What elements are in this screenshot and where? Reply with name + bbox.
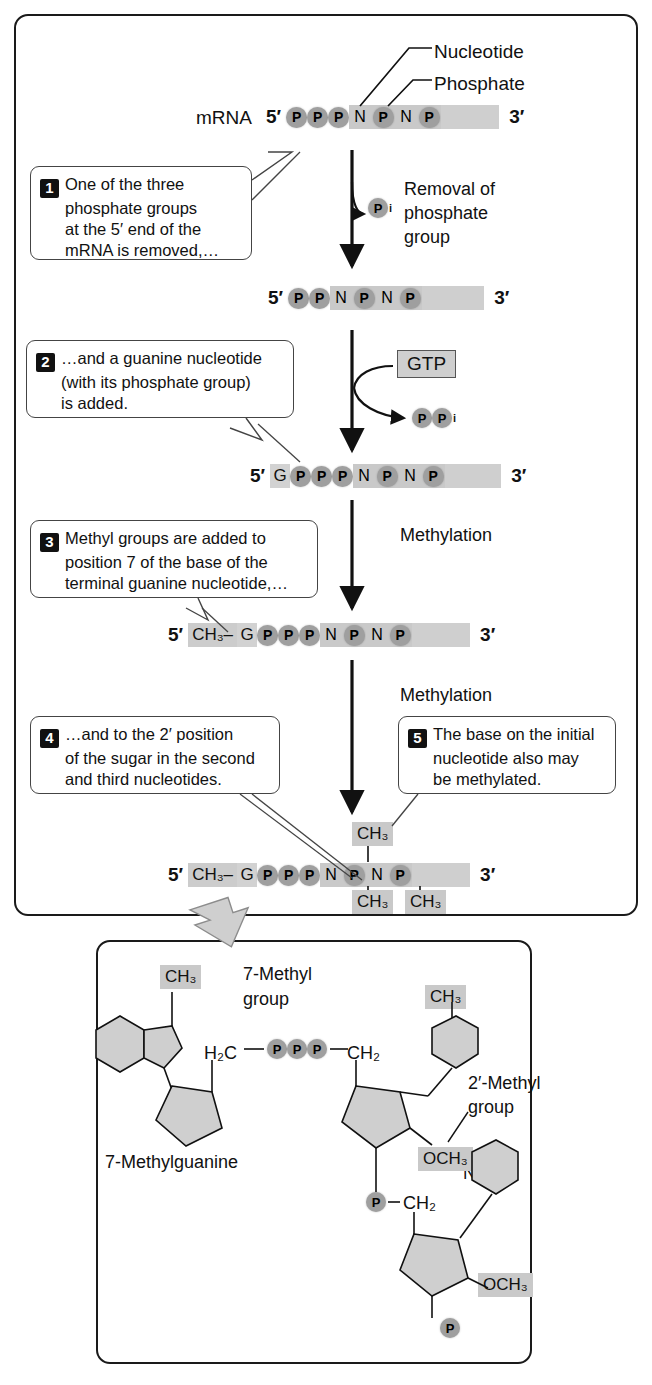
phosphate-box: P: [417, 105, 441, 129]
phosphate-bead: P: [412, 408, 432, 428]
phosphate-box: P: [398, 286, 422, 310]
phosphate-bead: P: [288, 288, 309, 309]
phosphate-bead: P: [287, 1039, 307, 1059]
label-mrna: mRNA: [196, 106, 252, 130]
nucleotide-box: N: [399, 464, 421, 488]
phosphate-bead: P: [286, 107, 307, 128]
linker-phosphate-2: P: [440, 1318, 460, 1338]
guanine-box: G: [237, 863, 257, 887]
callout-step-4: 4…and to the 2′ position of the sugar in…: [30, 716, 280, 794]
step-number-badge: 2: [36, 353, 55, 372]
methyl-cap-chip: CH₃–: [188, 863, 237, 887]
phosphate-bead: P: [278, 625, 299, 646]
step-1-line-3: at the 5′ end of the: [40, 219, 242, 240]
methylguanine-caption: 7-Methylguanine: [105, 1151, 238, 1174]
phosphate-bead: P: [377, 466, 398, 487]
phosphate-box: P: [421, 464, 445, 488]
callout-step-5: 5The base on the initial nucleotide also…: [398, 716, 616, 794]
guanine-letter: G: [101, 1040, 115, 1063]
phosphate-bead: P: [257, 865, 278, 886]
phosphate-bead: P: [290, 466, 311, 487]
base-n-label-1: N: [441, 1038, 454, 1061]
three-prime-label: 3′: [480, 624, 495, 646]
three-prime-label: 3′: [480, 864, 495, 886]
phosphate-bead: P: [419, 107, 440, 128]
phosphate-box: P: [342, 623, 366, 647]
three-prime-label: 3′: [511, 465, 526, 487]
step-4-line-3: and third nucleotides.: [40, 769, 270, 790]
five-prime-label: 5′: [168, 624, 183, 646]
step-5-line-2: nucleotide also may: [408, 748, 606, 769]
strand-tail: [422, 286, 484, 310]
nucleotide-box: N: [320, 863, 342, 887]
strand-tail: [445, 464, 501, 488]
phosphate-bead: P: [257, 625, 278, 646]
methyl-on-base-chip: CH₃: [425, 985, 466, 1009]
step-5-line-1: 5The base on the initial: [408, 724, 606, 748]
phosphate-bead: P: [299, 625, 320, 646]
step-3-line-3: terminal guanine nucleotide,…: [40, 573, 308, 594]
step-1-line-1: 1One of the three: [40, 174, 242, 198]
five-prime-label: 5′: [250, 465, 265, 487]
phosphate-bead: P: [423, 466, 444, 487]
nucleotide-box: N: [376, 286, 398, 310]
methyl-group-top: CH₃: [352, 822, 393, 846]
guanine-box: G: [237, 623, 257, 647]
step-5-line-3: be methylated.: [408, 769, 606, 790]
methylation-label-1: Methylation: [400, 524, 492, 547]
ppi-subscript: i: [453, 412, 456, 424]
phosphate-bead: P: [344, 625, 365, 646]
triphosphate-bridge: P P P: [267, 1039, 327, 1059]
five-prime-label: 5′: [168, 864, 183, 886]
step-2-line-3: is added.: [36, 393, 284, 414]
phosphate-bead: P: [299, 865, 320, 886]
h2c-label: H₂C: [204, 1042, 237, 1065]
step-number-badge: 5: [408, 729, 427, 748]
methyl-group-bottom-1: CH₃: [352, 890, 393, 914]
nucleotide-box: N: [395, 105, 417, 129]
phosphate-box: P: [371, 105, 395, 129]
nucleotide-box: N: [366, 863, 388, 887]
phosphate-bead: P: [390, 865, 411, 886]
nucleotide-box: N: [349, 105, 371, 129]
step-1-line-2: phosphate groups: [40, 198, 242, 219]
callout-step-1: 1One of the three phosphate groups at th…: [30, 166, 252, 260]
phosphate-bead: P: [309, 288, 330, 309]
pi-subscript: i: [389, 202, 392, 214]
step-2-line-2: (with its phosphate group): [36, 372, 284, 393]
strand-after-guanine-methylation: 5′ CH₃– G P P P N P N P 3′: [168, 622, 495, 648]
methyl-7-label-line-2: group: [243, 988, 289, 1011]
phosphate-box: P: [388, 863, 412, 887]
phosphate-box: P: [352, 286, 376, 310]
nucleotide-box: N: [330, 286, 352, 310]
ch2-linker-label: CH₂: [403, 1192, 436, 1215]
callout-step-3: 3Methyl groups are added to position 7 o…: [30, 520, 318, 598]
step-4-line-2: of the sugar in the second: [40, 748, 270, 769]
strand-after-guanine-added: 5′ G P P P N P N P 3′: [250, 463, 526, 489]
label-nucleotide: Nucleotide: [434, 40, 524, 64]
step-number-badge: 4: [40, 729, 59, 748]
nucleotide-box: N: [320, 623, 342, 647]
phosphate-box: P: [375, 464, 399, 488]
phosphate-bead: P: [432, 408, 452, 428]
phosphate-bead: P: [400, 288, 421, 309]
phosphate-bead: P: [354, 288, 375, 309]
och3-chip-2: OCH₃: [478, 1273, 533, 1297]
phosphate-bead: P: [328, 107, 349, 128]
inorganic-phosphate: Pi: [368, 198, 392, 218]
gtp-box: GTP: [397, 350, 456, 378]
removal-label-line-3: group: [404, 226, 450, 249]
removal-label-line-1: Removal of: [404, 178, 495, 201]
phosphate-bead: P: [440, 1318, 460, 1338]
och3-chip-1: OCH₃: [418, 1147, 473, 1171]
phosphate-bead: P: [278, 865, 299, 886]
nucleotide-box: N: [353, 464, 375, 488]
phosphate-bead: P: [344, 865, 365, 886]
step-4-line-1: 4…and to the 2′ position: [40, 724, 270, 748]
strand-tail: [441, 105, 499, 129]
phosphate-bead: P: [373, 107, 394, 128]
step-number-badge: 3: [40, 533, 59, 552]
methyl-2prime-label-line-2: group: [468, 1096, 514, 1119]
step-1-line-4: mRNA is removed,…: [40, 240, 242, 261]
phosphate-box: P: [388, 623, 412, 647]
